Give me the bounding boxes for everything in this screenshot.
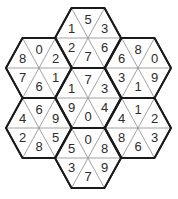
triangle-number: 4	[118, 111, 125, 126]
triangle-number: 0	[151, 51, 158, 66]
triangle-number: 1	[134, 102, 141, 117]
triangle-number: 9	[68, 100, 75, 115]
triangle-number: 8	[19, 51, 26, 66]
triangle-number: 8	[35, 139, 42, 154]
triangle-number: 6	[35, 102, 42, 117]
triangle-number: 5	[68, 141, 75, 156]
triangle-number: 4	[19, 111, 26, 126]
triangle-number: 3	[68, 160, 75, 175]
triangle-number: 0	[84, 109, 91, 124]
triangle-number: 3	[101, 81, 108, 96]
triangle-number: 0	[84, 132, 91, 147]
triangle-number: 3	[101, 21, 108, 36]
triangle-number: 7	[84, 49, 91, 64]
triangle-number: 7	[84, 72, 91, 87]
triangle-number: 1	[52, 70, 59, 85]
triangle-number: 9	[52, 111, 59, 126]
triangle-number: 8	[101, 141, 108, 156]
triangle-number: 6	[134, 139, 141, 154]
triangle-number: 5	[52, 130, 59, 145]
triangle-number: 1	[134, 79, 141, 94]
triangle-number: 6	[101, 40, 108, 55]
triangle-number: 9	[151, 70, 158, 85]
triangle-number: 8	[118, 130, 125, 145]
triangle-number: 6	[118, 51, 125, 66]
triangle-number: 3	[151, 130, 158, 145]
hex-puzzle-board: 5367210216788091367340916958241236840897…	[0, 0, 178, 199]
triangle-number: 1	[68, 21, 75, 36]
triangle-number: 5	[84, 12, 91, 27]
triangle-number: 4	[101, 100, 108, 115]
triangle-number: 2	[68, 40, 75, 55]
triangle-number: 2	[151, 111, 158, 126]
triangle-number: 2	[52, 51, 59, 66]
triangle-number: 7	[19, 70, 26, 85]
triangle-number: 2	[19, 130, 26, 145]
triangle-number: 6	[35, 79, 42, 94]
triangle-number: 9	[101, 160, 108, 175]
triangle-number: 8	[134, 42, 141, 57]
triangle-number: 3	[118, 70, 125, 85]
triangle-number: 7	[84, 169, 91, 184]
triangle-number: 1	[68, 81, 75, 96]
triangle-number: 0	[35, 42, 42, 57]
